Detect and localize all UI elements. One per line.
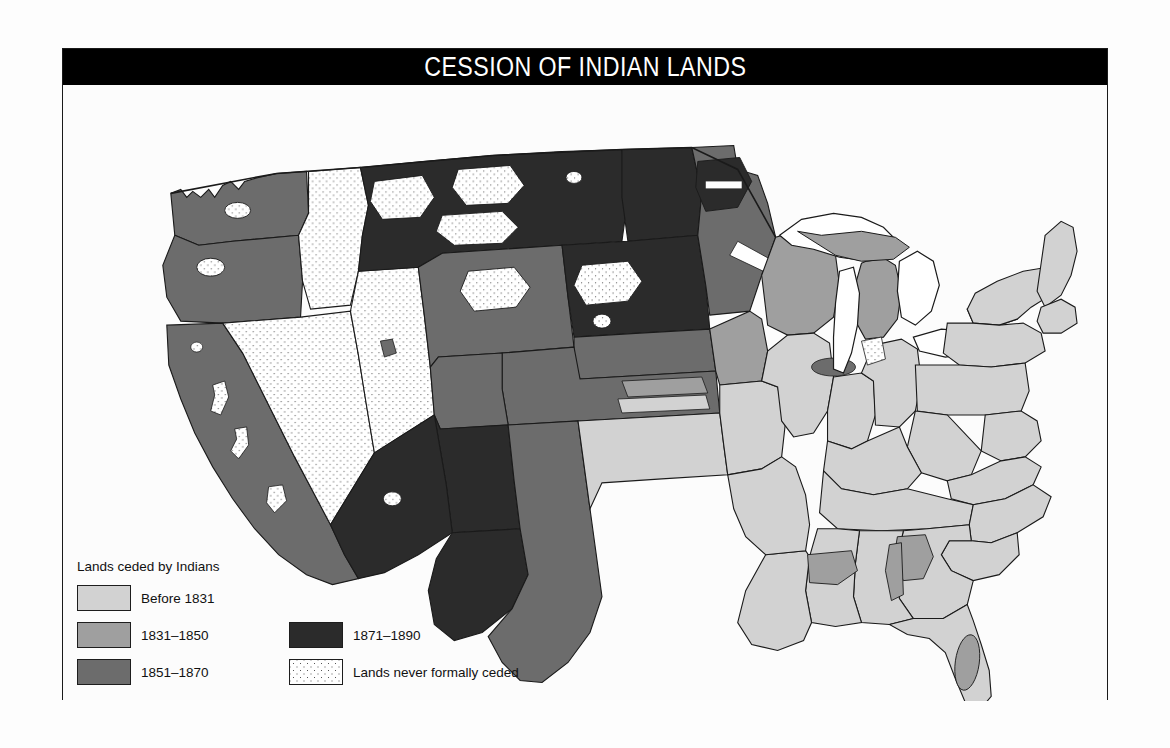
- unceded-montana-east: [566, 171, 582, 183]
- map-figure: CESSION OF INDIAN LANDS: [62, 48, 1108, 700]
- region-north-dakota: [622, 147, 702, 241]
- strip-kansas-1: [622, 377, 708, 397]
- legend-label-before-1831: Before 1831: [139, 591, 289, 606]
- unceded-sliver-ca-4: [191, 342, 203, 352]
- unceded-arizona: [383, 492, 401, 506]
- title-banner: CESSION OF INDIAN LANDS: [63, 49, 1107, 85]
- region-oregon: [163, 235, 303, 323]
- legend-swatch-1851-1870: [77, 659, 131, 685]
- unceded-strip-mn-1: [706, 181, 742, 188]
- unceded-montana-south: [436, 211, 518, 245]
- legend-entries: Before 1831 1831–1850 1871–1890 1851–187…: [77, 585, 547, 685]
- region-colorado: [430, 353, 508, 429]
- region-indiana: [828, 373, 876, 449]
- region-pennsylvania: [915, 363, 1029, 415]
- legend-label-1851-1870: 1851–1870: [139, 665, 289, 680]
- legend-title: Lands ceded by Indians: [77, 559, 547, 574]
- legend-swatch-never-ceded: [289, 659, 343, 685]
- legend-label-1871-1890: 1871–1890: [351, 628, 547, 643]
- unceded-dakota-small: [593, 314, 611, 328]
- map-legend: Lands ceded by Indians Before 1831 1831–…: [77, 559, 547, 685]
- legend-label-1831-1850: 1831–1850: [139, 628, 289, 643]
- legend-label-never-ceded: Lands never formally ceded: [351, 665, 547, 680]
- region-new-york-main: [943, 323, 1045, 367]
- region-nebraska: [574, 329, 716, 379]
- page-title: CESSION OF INDIAN LANDS: [424, 52, 746, 83]
- legend-swatch-1831-1850: [77, 622, 131, 648]
- unceded-patch-or: [197, 258, 225, 276]
- legend-swatch-before-1831: [77, 585, 131, 611]
- legend-swatch-1871-1890: [289, 622, 343, 648]
- unceded-patch-wa: [225, 202, 251, 218]
